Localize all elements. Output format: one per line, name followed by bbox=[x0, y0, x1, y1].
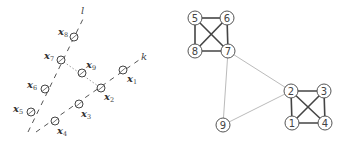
point-label: x1 bbox=[126, 73, 137, 86]
point-label: x2 bbox=[103, 91, 114, 104]
node-label: 3 bbox=[321, 86, 327, 97]
point-x5: x5 bbox=[12, 103, 35, 116]
weak-edge-7-9 bbox=[223, 51, 228, 125]
point-x4: x4 bbox=[51, 117, 67, 138]
clustered-graph: 123456789 bbox=[188, 11, 332, 132]
point-x6: x6 bbox=[26, 79, 49, 93]
node-label: 7 bbox=[225, 46, 231, 57]
node-label: 4 bbox=[322, 118, 328, 129]
point-x8: x8 bbox=[57, 26, 78, 41]
node-5: 5 bbox=[188, 11, 202, 25]
weak-edge-9-2 bbox=[223, 91, 291, 125]
point-label: x6 bbox=[26, 79, 37, 92]
point-label: x7 bbox=[43, 50, 54, 63]
node-6: 6 bbox=[220, 11, 234, 25]
diagram-canvas: lkx1x2x3x4x5x6x7x8x9 123456789 bbox=[0, 0, 345, 142]
point-lines-diagram: lkx1x2x3x4x5x6x7x8x9 bbox=[12, 5, 147, 138]
point-label: x9 bbox=[85, 59, 96, 72]
point-x3: x3 bbox=[75, 100, 91, 121]
point-x2: x2 bbox=[97, 84, 114, 104]
point-x9: x9 bbox=[78, 59, 96, 77]
node-label: 1 bbox=[289, 118, 295, 129]
node-label: 9 bbox=[220, 120, 226, 131]
node-2: 2 bbox=[284, 84, 298, 98]
node-9: 9 bbox=[216, 118, 230, 132]
point-label: x3 bbox=[80, 108, 91, 121]
node-3: 3 bbox=[317, 84, 331, 98]
point-label: x8 bbox=[57, 26, 68, 39]
node-1: 1 bbox=[285, 116, 299, 130]
node-label: 8 bbox=[192, 46, 198, 57]
node-8: 8 bbox=[188, 44, 202, 58]
point-x1: x1 bbox=[119, 66, 137, 86]
point-x7: x7 bbox=[43, 50, 65, 64]
line-label-k: k bbox=[141, 51, 147, 62]
node-label: 2 bbox=[288, 86, 294, 97]
node-7: 7 bbox=[221, 44, 235, 58]
line-label-l: l bbox=[81, 5, 84, 16]
point-label: x5 bbox=[12, 103, 23, 116]
node-label: 5 bbox=[192, 13, 198, 24]
node-4: 4 bbox=[318, 116, 332, 130]
point-label: x4 bbox=[56, 125, 67, 138]
weak-edge-7-2 bbox=[228, 51, 291, 91]
node-label: 6 bbox=[224, 13, 230, 24]
